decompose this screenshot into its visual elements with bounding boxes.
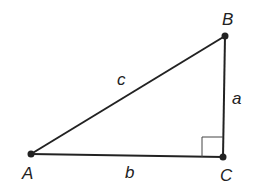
vertex-c-point — [220, 154, 227, 161]
side-b — [31, 154, 223, 157]
right-angle-marker — [202, 137, 223, 157]
side-a — [223, 36, 225, 157]
side-c-hypotenuse — [31, 36, 225, 154]
vertex-b-point — [222, 33, 229, 40]
side-c-label: c — [117, 70, 126, 89]
right-triangle-diagram: A B C c b a — [0, 0, 258, 188]
vertex-c-label: C — [220, 166, 233, 185]
vertex-a-point — [28, 151, 35, 158]
side-a-label: a — [232, 89, 241, 108]
vertex-a-label: A — [21, 164, 33, 183]
vertex-b-label: B — [222, 10, 233, 29]
side-b-label: b — [125, 163, 134, 182]
